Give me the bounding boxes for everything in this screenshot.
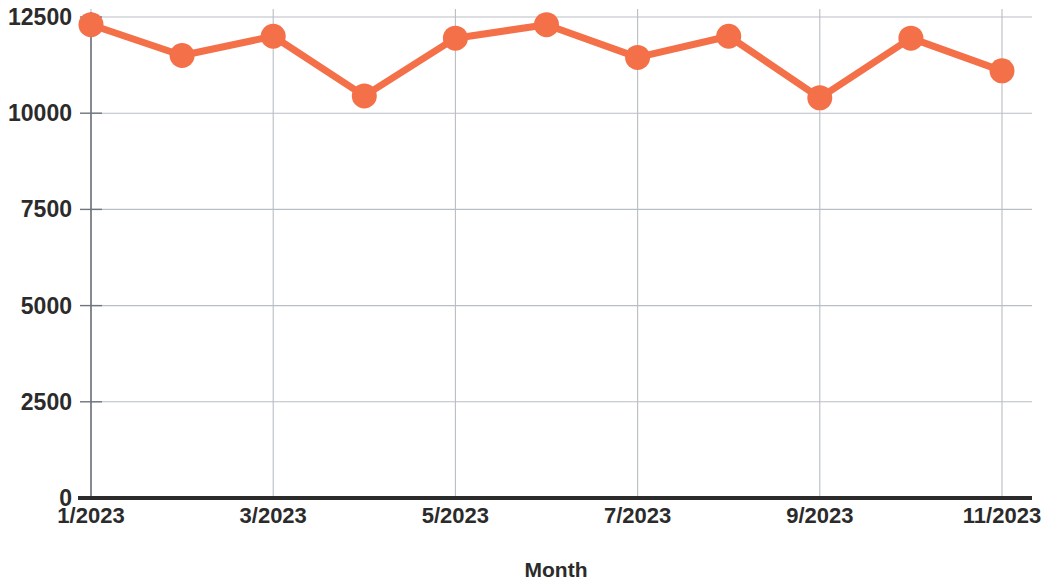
data-point-marker: [716, 24, 741, 49]
data-point-marker: [352, 83, 377, 108]
data-point-marker: [261, 24, 286, 49]
x-tick-label: 5/2023: [422, 503, 489, 528]
data-point-marker: [170, 43, 195, 68]
y-tick-label: 7500: [21, 196, 72, 222]
x-tick-label: 7/2023: [604, 503, 671, 528]
y-tick-label: 2500: [21, 389, 72, 415]
data-point-marker: [807, 85, 832, 110]
data-point-marker: [534, 12, 559, 37]
x-tick-label: 9/2023: [786, 503, 853, 528]
data-point-marker: [443, 26, 468, 51]
x-tick-label: 3/2023: [240, 503, 307, 528]
y-tick-label: 12500: [8, 4, 72, 30]
x-tick-label: 1/2023: [57, 503, 124, 528]
x-axis-title: Month: [525, 558, 588, 581]
data-point-marker: [79, 12, 104, 37]
data-point-marker: [990, 58, 1015, 83]
data-point-marker: [898, 26, 923, 51]
line-chart: 02500500075001000012500 1/20233/20235/20…: [0, 0, 1046, 583]
x-tick-labels: 1/20233/20235/20237/20239/202311/2023: [57, 503, 1041, 528]
x-tick-label: 11/2023: [963, 503, 1041, 528]
y-tick-label: 10000: [8, 100, 72, 126]
y-tick-label: 5000: [21, 293, 72, 319]
data-point-marker: [625, 45, 650, 70]
chart-canvas: 02500500075001000012500 1/20233/20235/20…: [0, 0, 1046, 583]
grid-lines: [91, 9, 1032, 498]
y-tick-labels: 02500500075001000012500: [8, 4, 102, 511]
